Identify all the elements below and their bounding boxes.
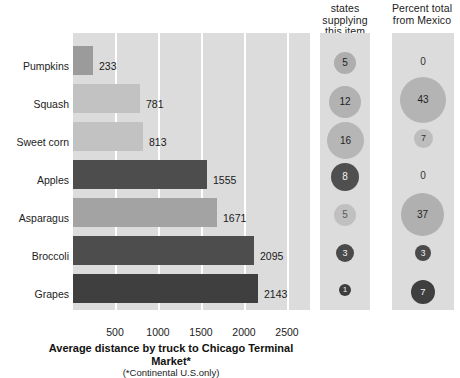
bar-label-squash: Squash [0,98,69,110]
bar-grapes [73,274,258,303]
bar-value-asparagus: 1671 [223,212,246,224]
gridline-2500 [287,33,289,310]
bar-value-pumpkins: 233 [99,60,117,72]
states-bubble-squash: 12 [329,86,361,118]
mexico-bubble-apples: 0 [413,169,433,183]
bar-broccoli [73,236,254,265]
states-bubble-sweet-corn: 16 [327,122,364,159]
bar-label-sweet-corn: Sweet corn [0,136,69,148]
bar-label-apples: Apples [0,174,69,186]
mexico-bubble-grapes: 7 [411,280,435,304]
bar-label-broccoli: Broccoli [0,250,69,262]
states-bubble-apples: 8 [331,163,359,191]
bar-label-grapes: Grapes [0,288,69,300]
mexico-bubble-sweet-corn: 7 [414,129,433,148]
infographic-chart: states supplying this item Percent total… [0,0,460,378]
xtick-2000: 2000 [224,326,264,338]
mexico-bubble-squash: 43 [400,77,446,123]
xtick-1500: 1500 [181,326,221,338]
states-bubble-asparagus: 5 [334,204,356,226]
mexico-bubble-asparagus: 37 [401,193,444,236]
bar-pumpkins [73,46,93,75]
xtick-500: 500 [95,326,135,338]
states-bubble-broccoli: 3 [336,244,354,262]
bar-apples [73,160,207,189]
bar-label-asparagus: Asparagus [0,212,69,224]
bar-label-pumpkins: Pumpkins [0,60,69,72]
x-axis-title: Average distance by truck to Chicago Ter… [36,342,306,367]
xtick-1000: 1000 [138,326,178,338]
gridline-2000 [244,33,246,310]
bar-value-squash: 781 [146,98,164,110]
states-bubble-grapes: 1 [339,284,351,296]
bar-value-grapes: 2143 [264,288,287,300]
x-axis-note: (*Continental U.S.only) [36,367,306,378]
bar-value-broccoli: 2095 [260,250,283,262]
xtick-2500: 2500 [267,326,307,338]
bar-squash [73,84,140,113]
mexico-column-header: Percent total from Mexico [386,3,458,26]
mexico-bubble-pumpkins: 0 [413,55,433,69]
bar-value-sweet-corn: 813 [149,136,167,148]
bar-value-apples: 1555 [213,174,236,186]
bar-sweet-corn [73,122,143,151]
mexico-bubble-broccoli: 3 [415,245,431,261]
bar-asparagus [73,198,217,227]
states-bubble-pumpkins: 5 [334,52,356,74]
